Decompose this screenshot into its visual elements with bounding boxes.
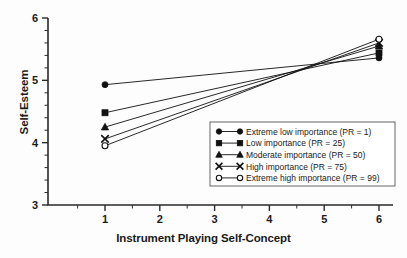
marker-open-circle-point <box>376 36 382 42</box>
y-tick-label: 3 <box>32 199 38 211</box>
marker-filled-square-legend-right <box>237 140 242 145</box>
x-tick-label: 6 <box>376 213 382 225</box>
marker-filled-circle-legend-left <box>216 129 221 134</box>
marker-filled-circle-point <box>102 82 108 88</box>
y-tick-label: 6 <box>32 12 38 24</box>
x-tick-label: 3 <box>212 213 218 225</box>
y-tick-label: 5 <box>32 74 38 86</box>
series-line <box>105 53 379 113</box>
marker-open-circle-point <box>102 143 108 149</box>
series-2 <box>101 42 382 130</box>
marker-filled-circle-legend-right <box>237 129 242 134</box>
series-line <box>105 46 379 127</box>
chart-figure: Self-Esteem Instrument Playing Self-Conc… <box>0 0 407 258</box>
marker-filled-square-point <box>376 50 382 56</box>
x-tick-label: 2 <box>157 213 163 225</box>
marker-open-circle-legend-left <box>216 175 221 180</box>
marker-filled-square-point <box>102 110 108 116</box>
legend-label: High importance (PR = 75) <box>246 162 347 172</box>
legend-label: Extreme high importance (PR = 99) <box>246 173 380 183</box>
marker-x-cross-point <box>101 135 109 143</box>
marker-filled-square-legend-left <box>216 140 221 145</box>
tick-labels: 3456123456 <box>32 12 382 225</box>
legend-label: Moderate importance (PR = 50) <box>246 150 365 160</box>
y-tick-label: 4 <box>32 137 39 149</box>
plot-area: 3456123456 Extreme low importance (PR = … <box>0 0 407 258</box>
series-1 <box>102 50 382 116</box>
legend-label: Extreme low importance (PR = 1) <box>246 127 372 137</box>
x-tick-label: 4 <box>266 213 273 225</box>
legend-label: Low importance (PR = 25) <box>246 138 345 148</box>
chart-legend: Extreme low importance (PR = 1)Low impor… <box>210 122 395 186</box>
marker-open-circle-legend-right <box>237 175 242 180</box>
x-tick-label: 1 <box>102 213 108 225</box>
x-tick-label: 5 <box>321 213 327 225</box>
